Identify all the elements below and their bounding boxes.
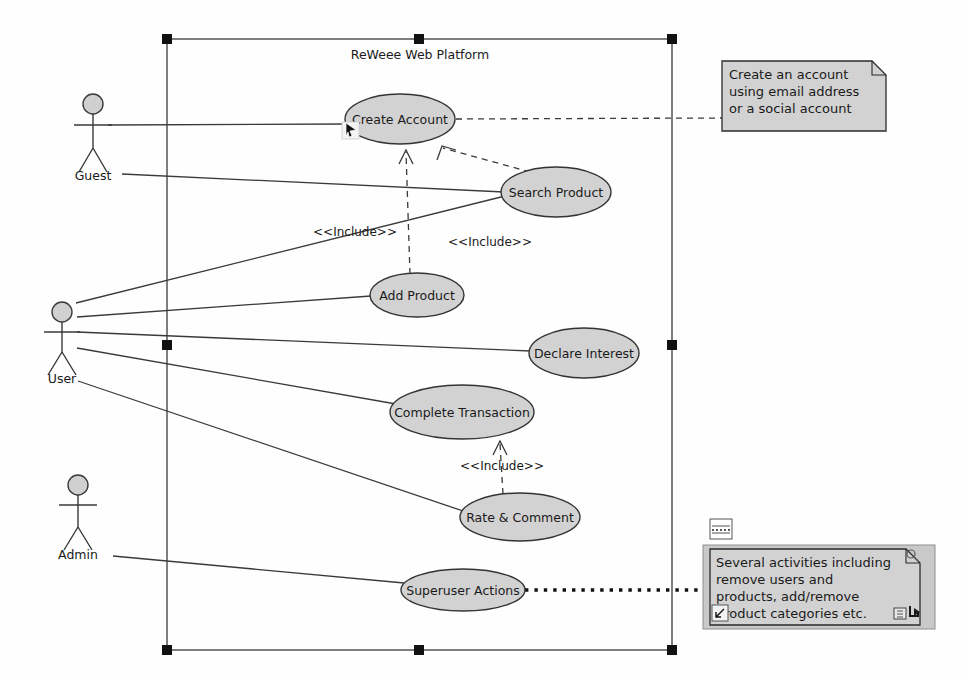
- use-case-label: Create Account: [352, 112, 448, 127]
- mouse-pointer-icon: [342, 122, 359, 139]
- handle-top-center[interactable]: [414, 34, 424, 44]
- actor-label: Guest: [75, 168, 112, 183]
- actor-head-icon: [68, 475, 88, 495]
- note-widget-icon[interactable]: [710, 519, 732, 539]
- use-case-label: Complete Transaction: [394, 405, 530, 420]
- note-create-account[interactable]: Create an account using email address or…: [722, 61, 886, 131]
- actor-head-icon: [83, 94, 103, 114]
- use-case-declare-interest[interactable]: Declare Interest: [529, 328, 639, 378]
- actor-guest[interactable]: Guest: [74, 94, 112, 183]
- handle-bottom-center[interactable]: [414, 645, 424, 655]
- actor-admin[interactable]: Admin: [58, 475, 98, 562]
- use-case-add-product[interactable]: Add Product: [370, 273, 464, 317]
- note-line: Several activities including: [716, 555, 891, 570]
- actor-body-icon: [74, 114, 112, 172]
- include-label-add-product: <<Include>>: [313, 225, 397, 239]
- use-case-label: Superuser Actions: [406, 583, 520, 598]
- diagram-canvas[interactable]: ReWeee Web Platform: [0, 0, 967, 680]
- handle-top-right[interactable]: [667, 34, 677, 44]
- handle-top-left[interactable]: [162, 34, 172, 44]
- assoc-user-complete-transaction[interactable]: [77, 348, 396, 404]
- use-case-rate-comment[interactable]: Rate & Comment: [460, 493, 580, 541]
- note-connector-create-account[interactable]: [456, 118, 722, 119]
- assoc-guest-search-product[interactable]: [122, 174, 504, 192]
- note-line: remove users and: [716, 572, 833, 587]
- handle-bottom-left[interactable]: [162, 645, 172, 655]
- use-case-complete-transaction[interactable]: Complete Transaction: [390, 385, 534, 439]
- assoc-admin-superuser-actions[interactable]: [113, 556, 404, 583]
- handle-middle-left[interactable]: [162, 340, 172, 350]
- use-case-label: Declare Interest: [534, 346, 634, 361]
- include-line-search-product[interactable]: [443, 148, 530, 172]
- system-boundary-title: ReWeee Web Platform: [351, 47, 489, 62]
- actor-head-icon: [52, 302, 72, 322]
- note-superuser-actions[interactable]: Several activities including remove user…: [703, 519, 935, 629]
- handle-bottom-right[interactable]: [667, 645, 677, 655]
- note-line: Create an account: [729, 67, 848, 82]
- handle-middle-right[interactable]: [667, 340, 677, 350]
- actor-user[interactable]: User: [44, 302, 80, 386]
- note-line: product categories etc.: [716, 606, 867, 621]
- actor-label: User: [48, 371, 77, 386]
- use-cases: Create Account Search Product Add Produc…: [345, 94, 639, 611]
- include-line-add-product[interactable]: [406, 152, 410, 274]
- include-label-rate-comment: <<Include>>: [460, 459, 544, 473]
- use-case-label: Search Product: [509, 185, 603, 200]
- note-line: or a social account: [729, 101, 852, 116]
- actor-label: Admin: [58, 547, 98, 562]
- note-line: using email address: [729, 84, 860, 99]
- use-case-create-account[interactable]: Create Account: [345, 94, 455, 144]
- include-label-search-product: <<Include>>: [448, 235, 532, 249]
- use-case-label: Rate & Comment: [466, 510, 574, 525]
- actor-body-icon: [59, 495, 97, 550]
- use-case-diagram-svg[interactable]: ReWeee Web Platform: [0, 0, 967, 680]
- assoc-user-add-product[interactable]: [77, 296, 371, 317]
- actor-body-icon: [44, 322, 80, 375]
- note-resize-icon[interactable]: [712, 605, 728, 621]
- assoc-user-declare-interest[interactable]: [77, 332, 531, 351]
- assoc-guest-create-account[interactable]: [108, 124, 347, 125]
- use-case-search-product[interactable]: Search Product: [501, 167, 611, 217]
- use-case-label: Add Product: [379, 288, 455, 303]
- note-line: products, add/remove: [716, 589, 859, 604]
- include-arrow-search-product: [437, 146, 456, 160]
- use-case-superuser-actions[interactable]: Superuser Actions: [401, 569, 525, 611]
